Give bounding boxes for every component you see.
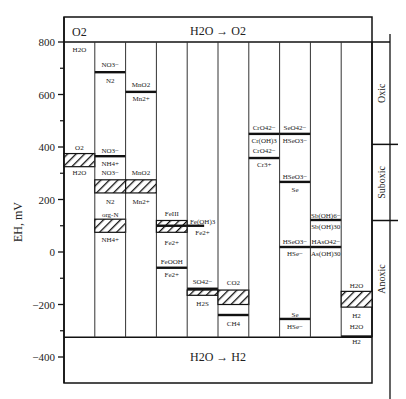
species-label: H2 [352,338,361,346]
species-label: H2 [352,312,361,320]
species-label: HSe− [287,250,303,258]
hatched-transition-zone [187,290,218,295]
y-tick-label: 200 [39,194,56,206]
species-label: CrO42− [253,147,276,155]
y-axis: 8006004002000−200−400 [32,17,64,383]
species-label: Cr3+ [257,161,272,169]
title-o2: O2 [72,25,87,39]
species-label: CrO42− [253,124,276,132]
y-tick-label: 0 [50,246,56,258]
species-label: SO42− [193,278,213,286]
species-label: O2 [75,144,84,152]
species-label: Mn2+ [132,198,149,206]
redox-zones: OxicSuboxicAnoxic [372,34,398,399]
hatched-transition-zone [341,291,372,307]
species-label: SeO42− [283,124,306,132]
hatched-transition-zone [218,290,249,304]
species-label: HSe− [287,323,303,331]
hatched-transition-zone [95,180,126,193]
species-label: FeOOH [161,258,183,266]
species-label: FeIII [165,210,180,218]
title-water-reduction: H2O → H2 [190,350,246,364]
species-label: Mn2+ [132,95,149,103]
species-label: H2O [73,46,87,54]
species-label: CO2 [227,279,241,287]
y-tick-label: −400 [32,351,55,363]
y-tick-label: −200 [32,299,55,311]
species-label: Sb(OH)30 [311,223,341,231]
species-label: H2S [196,300,209,308]
species-label: HSeO3− [283,137,308,145]
species-label: NH4+ [101,236,119,244]
species-label: HAsO42− [311,238,340,246]
species-label: N2 [106,198,115,206]
species-label: HSeO3− [283,238,308,246]
y-tick-label: 400 [39,141,56,153]
species-label: NH4+ [101,160,119,168]
species-label: Sb(OH)6− [311,212,341,220]
species-label: H2O [73,169,87,177]
zone-label-oxic: Oxic [376,83,387,103]
species-label: Fe2+ [165,271,180,279]
redox-ladder-diagram: H2OO2H2ONO3−N2NO3−NH4+NO3−N2org-NNH4+MnO… [0,0,406,399]
species-label: Se [292,311,299,319]
species-label: Cr(OH)3 [252,137,278,145]
hatched-transition-zone [95,219,126,232]
species-label: As(OH)30 [311,250,341,258]
species-label: MnO2 [132,169,151,177]
species-label: MnO2 [132,81,151,89]
species-label: org-N [102,211,119,219]
title-water-oxidation: H2O → O2 [190,24,246,38]
species-label: N2 [106,77,115,85]
species-label: Se [292,186,299,194]
species-label: Fe(OH)3 [190,218,216,226]
zone-label-anoxic: Anoxic [376,264,387,294]
y-tick-label: 600 [39,89,56,101]
species-label: CH4 [227,320,241,328]
y-tick-label: 800 [39,36,56,48]
species-label: H2O [350,282,364,290]
species-label: H2O [350,323,364,331]
species-label: NO3− [101,61,119,69]
y-axis-label: EH, mV [11,202,25,242]
species-label: Fe2+ [195,229,210,237]
hatched-transition-zone [64,154,95,167]
species-label: Fe2+ [165,239,180,247]
hatched-transition-zone [126,180,157,193]
species-label: NO3− [101,169,119,177]
zone-label-suboxic: Suboxic [376,165,387,198]
species-label: HSeO3− [283,173,308,181]
species-label: NO3− [101,147,119,155]
